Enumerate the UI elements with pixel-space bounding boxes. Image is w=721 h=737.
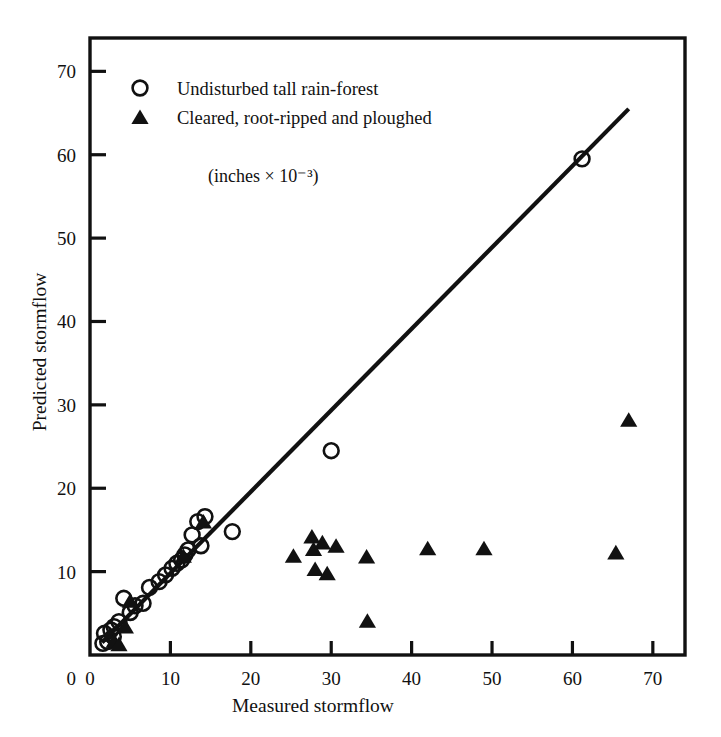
x-tick-label-20: 20 — [241, 668, 260, 689]
scatter-plot-figure: 010203040506070 010203040506070 Undistur… — [0, 0, 721, 737]
data-point-open-circle — [225, 524, 240, 539]
y-tick-label-10: 10 — [57, 562, 76, 583]
data-point-filled-triangle — [307, 561, 324, 576]
data-point-filled-triangle — [475, 541, 492, 556]
plot-canvas: 010203040506070 010203040506070 Undistur… — [0, 0, 721, 737]
data-point-filled-triangle — [419, 541, 436, 556]
x-tick-label-50: 50 — [483, 668, 502, 689]
legend-label-undisturbed: Undisturbed tall rain-forest — [177, 79, 379, 99]
x-tick-label-40: 40 — [402, 668, 421, 689]
data-point-filled-triangle — [607, 545, 624, 560]
x-axis-title: Measured stormflow — [232, 695, 394, 716]
y-tick-label-70: 70 — [57, 61, 76, 82]
data-point-filled-triangle — [358, 549, 375, 564]
x-tick-label-0: 0 — [85, 668, 95, 689]
y-axis-tick-labels: 010203040506070 — [57, 61, 76, 689]
y-tick-label-40: 40 — [57, 311, 76, 332]
data-point-filled-triangle — [303, 529, 320, 544]
y-tick-label-50: 50 — [57, 228, 76, 249]
legend-marker-filled-triangle-icon — [131, 110, 148, 125]
legend: Undisturbed tall rain-forest Cleared, ro… — [131, 79, 432, 187]
data-point-filled-triangle — [327, 538, 344, 553]
legend-marker-open-circle-icon — [133, 81, 148, 96]
y-tick-label-60: 60 — [57, 145, 76, 166]
y-axis-title: Predicted stormflow — [29, 273, 50, 432]
y-tick-label-20: 20 — [57, 478, 76, 499]
y-tick-label-0: 0 — [67, 668, 77, 689]
data-point-open-circle — [324, 443, 339, 458]
x-axis-ticks — [170, 641, 652, 655]
data-point-filled-triangle — [285, 548, 302, 563]
legend-label-cleared: Cleared, root-ripped and ploughed — [177, 108, 433, 128]
x-tick-label-60: 60 — [563, 668, 582, 689]
y-tick-label-30: 30 — [57, 395, 76, 416]
units-annotation: (inches × 10⁻³) — [208, 166, 319, 187]
y-axis-ticks — [90, 71, 106, 571]
x-tick-label-30: 30 — [322, 668, 341, 689]
data-point-filled-triangle — [359, 613, 376, 628]
x-tick-label-10: 10 — [161, 668, 180, 689]
data-point-filled-triangle — [620, 412, 637, 427]
x-tick-label-70: 70 — [643, 668, 662, 689]
x-axis-tick-labels: 010203040506070 — [85, 668, 662, 689]
